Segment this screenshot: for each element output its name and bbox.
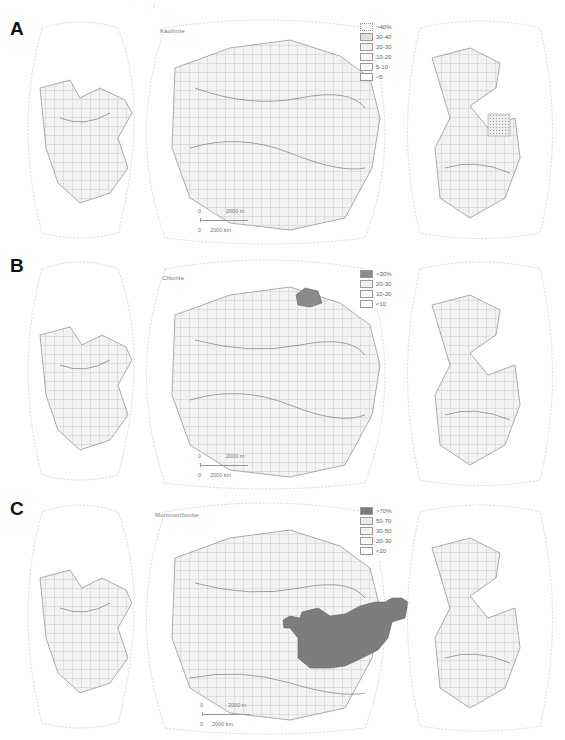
panel-letter-b: B — [10, 255, 24, 277]
scale-tick — [200, 218, 201, 222]
panel-b-chlorite: B Chlorite >30% 20-30 10-20 <10 0 2000 m… — [0, 255, 565, 495]
legend-label: <10 — [376, 301, 386, 307]
legend-row: 10-20 — [360, 52, 392, 62]
legend-swatch — [360, 23, 373, 31]
scale-bottom-label: 2000 km — [210, 227, 231, 233]
legend-label: 30-50 — [376, 528, 391, 534]
legend-swatch — [360, 290, 373, 298]
scale-zero-top: 0 — [198, 208, 201, 214]
legend-swatch — [360, 300, 373, 308]
mineral-title: Montmorillonite — [155, 512, 199, 518]
scale-zero-bottom: 0 — [200, 721, 203, 727]
legend-label: 20-30 — [376, 538, 391, 544]
scale-bar: 0 2000 m 0 2000 km — [200, 702, 260, 738]
legend-label: 5-10 — [376, 64, 388, 70]
legend-swatch — [360, 280, 373, 288]
legend-row: >40% — [360, 22, 392, 32]
scale-bottom-label: 2000 km — [212, 721, 233, 727]
legend-swatch — [360, 517, 373, 525]
mineral-title: Chlorite — [162, 275, 184, 281]
legend-swatch — [360, 527, 373, 535]
panel-a-kaolinite: A Kaolinite >40% 30-40 20-30 10-20 5-10 … — [0, 18, 565, 248]
top-mark: | — [153, 2, 155, 8]
mineral-title: Kaolinite — [160, 28, 185, 34]
legend-label: 20-30 — [376, 44, 391, 50]
legend-swatch — [360, 33, 373, 41]
legend-row: 5-10 — [360, 62, 392, 72]
legend-row: <5 — [360, 72, 392, 82]
legend-swatch — [360, 547, 373, 555]
legend-label: <20 — [376, 548, 386, 554]
scale-bottom-label: 2000 km — [210, 472, 231, 478]
legend: >70% 50-70 30-50 20-30 <20 — [360, 506, 392, 556]
legend: >40% 30-40 20-30 10-20 5-10 <5 — [360, 22, 392, 82]
scale-top-label: 2000 m — [226, 453, 244, 459]
legend-row: 20-30 — [360, 536, 392, 546]
map-chlorite — [0, 255, 565, 495]
legend-label: >30% — [376, 271, 392, 277]
legend-swatch — [360, 63, 373, 71]
legend-label: >40% — [376, 24, 392, 30]
scale-bar: 0 2000 m 0 2000 km — [198, 208, 258, 244]
panel-c-montmorillonite: C Montmorillonite >70% 50-70 30-50 20-30… — [0, 498, 565, 740]
scale-zero-bottom: 0 — [198, 472, 201, 478]
legend-swatch — [360, 53, 373, 61]
scale-zero-top: 0 — [200, 702, 203, 708]
legend-row: 30-50 — [360, 526, 392, 536]
scale-tick — [202, 712, 203, 716]
scale-zero-bottom: 0 — [198, 227, 201, 233]
panel-letter-a: A — [10, 18, 24, 40]
panel-letter-c: C — [10, 498, 24, 520]
legend-label: 20-30 — [376, 281, 391, 287]
legend-swatch — [360, 73, 373, 81]
legend-row: <20 — [360, 546, 392, 556]
scale-zero-top: 0 — [198, 453, 201, 459]
scale-line — [202, 714, 250, 715]
legend-row: 20-30 — [360, 42, 392, 52]
scale-top-label: 2000 m — [226, 208, 244, 214]
legend-label: 10-20 — [376, 291, 391, 297]
top-mark: · — [131, 2, 133, 8]
legend: >30% 20-30 10-20 <10 — [360, 269, 392, 309]
legend-swatch — [360, 43, 373, 51]
legend-label: <5 — [376, 74, 383, 80]
legend-label: 30-40 — [376, 34, 391, 40]
scale-line — [200, 220, 248, 221]
legend-row: >70% — [360, 506, 392, 516]
legend-row: 20-30 — [360, 279, 392, 289]
map-montmorillonite — [0, 498, 565, 740]
legend-row: 50-70 — [360, 516, 392, 526]
map-kaolinite — [0, 18, 565, 248]
scale-line — [200, 465, 248, 466]
legend-swatch — [360, 270, 373, 278]
legend-label: 10-20 — [376, 54, 391, 60]
legend-row: <10 — [360, 299, 392, 309]
legend-label: 50-70 — [376, 518, 391, 524]
legend-row: 30-40 — [360, 32, 392, 42]
scale-top-label: 2000 m — [228, 702, 246, 708]
legend-swatch — [360, 537, 373, 545]
legend-row: >30% — [360, 269, 392, 279]
legend-label: >70% — [376, 508, 392, 514]
scale-bar: 0 2000 m 0 2000 km — [198, 453, 258, 489]
scale-tick — [200, 463, 201, 467]
legend-row: 10-20 — [360, 289, 392, 299]
legend-swatch — [360, 507, 373, 515]
